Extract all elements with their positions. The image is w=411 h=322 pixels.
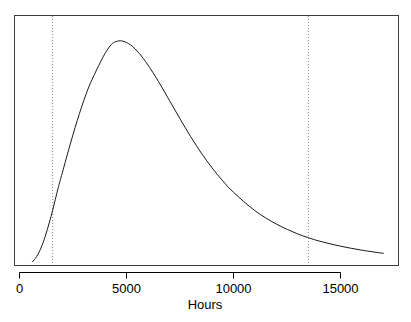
x-axis bbox=[20, 273, 341, 279]
x-tick-label: 10000 bbox=[215, 282, 251, 295]
x-tick-label: 5000 bbox=[112, 282, 141, 295]
axes-frame bbox=[15, 16, 399, 266]
x-axis-ticks bbox=[20, 273, 341, 279]
x-axis-title: Hours bbox=[188, 298, 223, 311]
x-tick-label: 15000 bbox=[322, 282, 358, 295]
x-tick-label: 0 bbox=[16, 282, 23, 295]
density-plot-figure: 050001000015000 Hours bbox=[0, 0, 411, 322]
plot-canvas bbox=[0, 0, 411, 322]
